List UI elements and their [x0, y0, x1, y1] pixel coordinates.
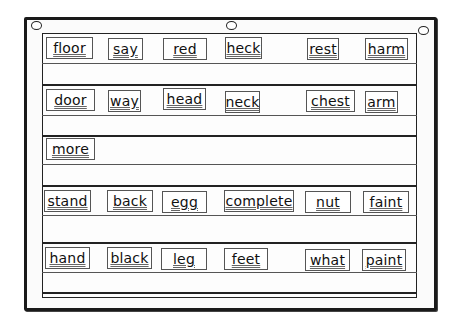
word-label: rest: [309, 41, 337, 57]
word-card[interactable]: more: [46, 138, 95, 160]
word-card[interactable]: what: [305, 249, 350, 271]
word-card[interactable]: chest: [306, 90, 355, 112]
word-label: what: [310, 252, 345, 268]
word-label: way: [110, 93, 139, 109]
word-card[interactable]: arm: [365, 91, 398, 113]
word-label: faint: [370, 194, 403, 210]
word-card[interactable]: heck: [225, 37, 262, 59]
word-card[interactable]: black: [107, 247, 152, 269]
word-label: head: [167, 91, 203, 107]
word-label: complete: [226, 193, 293, 209]
word-card[interactable]: leg: [161, 248, 207, 270]
word-card[interactable]: neck: [225, 91, 260, 113]
grommet-hole-right: [418, 26, 429, 35]
word-card[interactable]: faint: [363, 191, 409, 213]
row-divider: [42, 185, 417, 187]
word-label: hand: [49, 250, 85, 266]
word-card[interactable]: egg: [162, 191, 207, 213]
word-label: floor: [53, 40, 86, 56]
word-card[interactable]: red: [163, 38, 207, 60]
word-label: paint: [366, 252, 403, 268]
word-card[interactable]: head: [163, 88, 206, 110]
word-label: nut: [316, 194, 340, 210]
pocket-line: [42, 164, 417, 165]
word-card[interactable]: say: [108, 38, 143, 60]
pocket-line: [42, 272, 417, 273]
word-label: egg: [171, 194, 198, 210]
word-card[interactable]: feet: [224, 248, 268, 270]
word-card[interactable]: paint: [362, 249, 406, 271]
row-divider: [42, 84, 417, 86]
word-card[interactable]: back: [107, 190, 153, 212]
row-divider: [42, 292, 417, 294]
word-card[interactable]: harm: [365, 38, 408, 60]
word-card[interactable]: floor: [46, 37, 93, 59]
word-label: stand: [47, 193, 87, 209]
word-card[interactable]: rest: [307, 38, 339, 60]
word-label: harm: [368, 41, 405, 57]
word-card[interactable]: nut: [305, 191, 351, 213]
grommet-hole-center: [226, 21, 237, 30]
grommet-hole-left: [31, 21, 42, 30]
row-divider: [42, 242, 417, 244]
word-label: say: [113, 41, 138, 57]
word-label: more: [52, 141, 89, 157]
word-label: feet: [232, 251, 260, 267]
pocket-line: [42, 215, 417, 216]
word-card[interactable]: complete: [224, 190, 294, 212]
word-card[interactable]: door: [46, 89, 95, 111]
word-label: neck: [225, 94, 259, 110]
pocket-line: [42, 115, 417, 116]
word-label: door: [54, 92, 87, 108]
pocket-line: [42, 63, 417, 64]
word-card[interactable]: hand: [45, 247, 90, 269]
word-label: back: [113, 193, 147, 209]
word-label: leg: [173, 251, 195, 267]
word-label: arm: [367, 94, 395, 110]
word-label: chest: [311, 93, 350, 109]
word-label: black: [110, 250, 148, 266]
word-card[interactable]: way: [108, 90, 141, 112]
row-divider: [42, 135, 417, 137]
word-label: heck: [226, 40, 260, 56]
word-label: red: [173, 41, 197, 57]
word-card[interactable]: stand: [44, 190, 91, 212]
